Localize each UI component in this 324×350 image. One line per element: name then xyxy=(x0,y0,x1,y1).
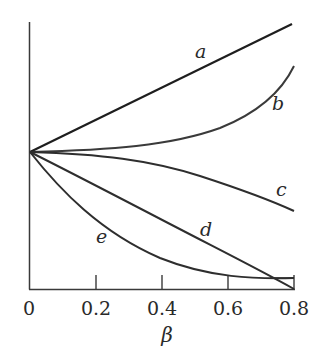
label-a: a xyxy=(195,40,206,62)
label-b: b xyxy=(272,92,284,114)
label-c: c xyxy=(276,178,287,200)
x-axis-label: β xyxy=(160,323,173,347)
tick-label-0.4: 0.4 xyxy=(147,297,177,319)
label-d: d xyxy=(200,218,212,240)
tick-label-0: 0 xyxy=(23,297,35,319)
label-e: e xyxy=(96,225,107,247)
curve-b xyxy=(30,66,294,152)
line-chart: a b c d e 0 0.2 0.4 0.6 0.8 β xyxy=(0,0,324,350)
tick-label-0.6: 0.6 xyxy=(213,297,243,319)
curve-d xyxy=(30,152,294,289)
curve-c xyxy=(30,152,294,211)
tick-label-0.2: 0.2 xyxy=(81,297,111,319)
curve-a xyxy=(30,24,292,152)
curve-e xyxy=(30,152,294,278)
tick-label-0.8: 0.8 xyxy=(279,297,309,319)
